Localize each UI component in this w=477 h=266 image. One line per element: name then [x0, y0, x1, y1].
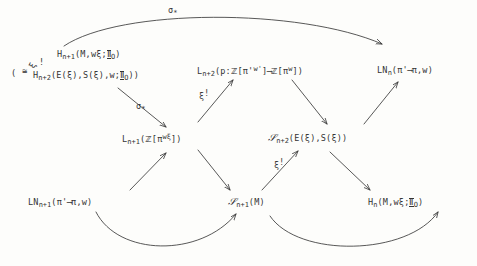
node-l-group-mid-left: Ln+1(ℤ[πwξ]) — [122, 134, 182, 146]
xi-shriek-left-label: ξ — [30, 61, 35, 70]
node-ln-group-top-right: LNn(π'⟶π,w) — [377, 66, 433, 77]
edge-mid-right-to-bottom-right — [330, 152, 370, 190]
node-l-group-top-mid: Ln+2(p:ℤ[π'w']⟶ℤ[πw]) — [197, 66, 303, 78]
node-structure-set-mid-right: 𝒮n+2(E(ξ),S(ξ)) — [268, 133, 347, 145]
edge-bottom-left-to-bottom-mid-curve — [96, 212, 236, 246]
script-S-bottom-mid: 𝒮 — [228, 196, 236, 207]
iso-symbol: ≅ — [22, 67, 27, 76]
node-structure-set-bottom-mid: 𝒮n+1(M) — [228, 197, 265, 209]
shriek-left-label: ! — [39, 58, 44, 67]
label-xi-shriek-upper: ξ! — [199, 89, 209, 101]
node-homology-top-left: Hn+1(M,wξ;ⅡO) ξ ! ( ≅ Hn+2(E(ξ),S(ξ),w;Ⅱ… — [8, 50, 208, 94]
arrow-layer — [0, 0, 477, 266]
edge-top-mid-to-mid-right — [292, 80, 327, 124]
edge-bottom-mid-to-bottom-mid-up — [262, 151, 298, 190]
label-sigma-star-top: σ* — [168, 5, 178, 17]
edge-top-left-to-top-right-curve — [64, 17, 382, 46]
node-ln-group-bottom-left: LNn+1(π'⟶π,w) — [28, 198, 92, 209]
label-xi-shriek-lower: ξ! — [274, 158, 284, 170]
homology-top-left-iso: ( — [11, 69, 16, 78]
script-S-mid-right: 𝒮 — [268, 132, 276, 143]
commutative-diagram: Hn+1(M,wξ;ⅡO) ξ ! ( ≅ Hn+2(E(ξ),S(ξ),w;Ⅱ… — [0, 0, 477, 266]
edge-bottom-mid-to-bottom-right-curve — [270, 212, 438, 246]
homology-top-left-main: Hn+1(M,wξ;ⅡO) — [57, 50, 121, 61]
label-sigma-star-mid: σ* — [136, 101, 146, 113]
node-homology-bottom-right: Hn(M,wξ;ⅡO) — [368, 198, 423, 209]
edge-bottom-left-to-mid-left — [130, 153, 166, 190]
edge-mid-right-to-top-right — [364, 82, 398, 124]
edge-mid-left-to-bottom-mid — [198, 150, 230, 190]
homology-top-left-alt: Hn+2(E(ξ),S(ξ),w;ⅡO)) — [33, 71, 139, 82]
